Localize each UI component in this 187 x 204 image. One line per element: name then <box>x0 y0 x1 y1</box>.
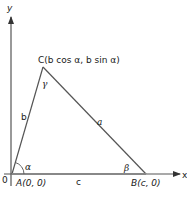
side-b-label: b <box>21 112 27 122</box>
side-c-label: c <box>76 177 81 187</box>
angle-alpha-label: α <box>25 162 31 172</box>
angle-beta-label: β <box>123 163 129 173</box>
origin-label: 0 <box>2 175 8 185</box>
angle-gamma-label: γ <box>42 79 48 89</box>
side-a-label: a <box>97 117 102 127</box>
y-axis-label: y <box>6 3 13 13</box>
side-b <box>12 67 43 174</box>
side-a <box>43 67 146 174</box>
x-axis-label: x <box>182 170 187 180</box>
vertex-c-label: C(b cos α, b sin α) <box>38 55 120 65</box>
triangle-diagram: y x 0 C(b cos α, b sin α) A(0, 0) B(c, 0… <box>0 0 187 204</box>
angle-alpha-arc <box>15 163 24 175</box>
vertex-b-label: B(c, 0) <box>131 178 161 188</box>
vertex-a-label: A(0, 0) <box>15 178 46 188</box>
